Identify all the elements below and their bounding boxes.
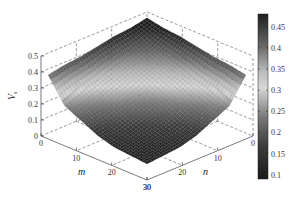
- n-tick-label: 10: [214, 154, 222, 163]
- z-tick-label: 0.2: [28, 100, 38, 109]
- colorbar-gradient: [258, 14, 268, 179]
- colorbar-tick-label: 0.2: [271, 128, 281, 137]
- z-tick-label: 0.1: [28, 116, 38, 125]
- z-tick-label: 0: [34, 132, 38, 141]
- m-axis-label: m: [78, 166, 85, 177]
- surface-mesh: [48, 18, 246, 164]
- n-tick-label: 20: [178, 168, 186, 177]
- colorbar-tick-label: 0.45: [271, 23, 285, 32]
- z-axis-label: Vs: [6, 91, 18, 100]
- colorbar-tick-label: 0.15: [271, 150, 285, 159]
- n-axis-label: n: [203, 166, 208, 177]
- z-tick-label: 0.4: [28, 68, 38, 77]
- m-tick-label: 0: [39, 139, 43, 148]
- m-tick-label: 10: [72, 154, 80, 163]
- colorbar-tick-label: 0.1: [271, 171, 281, 180]
- colorbar-tick-label: 0.25: [271, 107, 285, 116]
- z-tick-label: 0.5: [28, 52, 38, 61]
- n-tick-label: 0: [251, 139, 255, 148]
- z-tick-label: 0.3: [28, 84, 38, 93]
- colorbar-tick-label: 0.35: [271, 65, 285, 74]
- m-tick-label: 20: [108, 168, 116, 177]
- n-tick-label: 30: [143, 183, 151, 192]
- colorbar-tick-label: 0.4: [271, 44, 281, 53]
- surface-plot: 00.10.20.30.40.501020300102030 0.10.150.…: [0, 0, 296, 201]
- colorbar-tick-label: 0.3: [271, 86, 281, 95]
- colorbar: 0.10.150.20.250.30.350.40.45: [258, 14, 285, 180]
